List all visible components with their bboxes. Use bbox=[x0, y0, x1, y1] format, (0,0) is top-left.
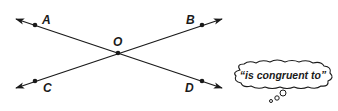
point-B bbox=[200, 23, 205, 28]
intersecting-lines-diagram: A B O C D “is congruent to” bbox=[0, 0, 338, 111]
label-D: D bbox=[185, 81, 194, 95]
point-C bbox=[33, 79, 38, 84]
bubble-small bbox=[270, 100, 273, 103]
label-C: C bbox=[43, 81, 52, 95]
thought-bubble: “is congruent to” bbox=[235, 60, 332, 103]
thought-bubble-text: “is congruent to” bbox=[240, 69, 327, 81]
point-O bbox=[116, 51, 121, 56]
point-A bbox=[33, 23, 38, 28]
bubble-large bbox=[280, 90, 286, 96]
label-O: O bbox=[113, 35, 123, 49]
bubble-medium bbox=[275, 96, 279, 100]
label-B: B bbox=[186, 13, 195, 27]
label-A: A bbox=[41, 13, 51, 27]
point-D bbox=[200, 79, 205, 84]
